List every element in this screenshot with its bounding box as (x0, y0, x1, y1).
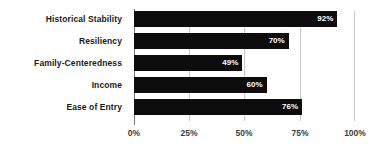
xtick-label-75: 75% (291, 128, 308, 138)
category-label-resiliency: Resiliency (0, 36, 122, 46)
bar-row: 70% (134, 33, 355, 49)
bar-value-resiliency: 70% (134, 33, 289, 49)
xtick-label-100: 100% (344, 128, 366, 138)
category-axis-labels: Historical Stability Resiliency Family-C… (0, 11, 128, 121)
xtick-label-0: 0% (128, 128, 140, 138)
category-label-ease-of-entry: Ease of Entry (0, 102, 122, 112)
xtick-label-25: 25% (180, 128, 197, 138)
category-label-historical-stability: Historical Stability (0, 14, 122, 24)
bar-row: 76% (134, 99, 355, 115)
plot-area: 92% 70% 49% 60% 76% (134, 11, 355, 121)
bar-row: 60% (134, 77, 355, 93)
bar-row: 92% (134, 11, 355, 27)
x-axis: 0% 25% 50% 75% 100% (134, 124, 355, 144)
xtick-label-50: 50% (235, 128, 252, 138)
bar-value-family-centeredness: 49% (134, 55, 242, 71)
bar-value-ease-of-entry: 76% (134, 99, 302, 115)
bar-row: 49% (134, 55, 355, 71)
bar-value-historical-stability: 92% (134, 11, 337, 27)
category-label-family-centeredness: Family-Centeredness (0, 58, 122, 68)
category-label-income: Income (0, 80, 122, 90)
bar-chart: Historical Stability Resiliency Family-C… (0, 0, 386, 149)
bar-value-income: 60% (134, 77, 267, 93)
